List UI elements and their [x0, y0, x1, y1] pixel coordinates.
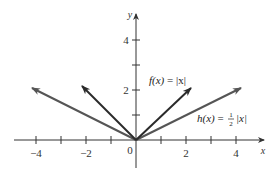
- y-tick-label-2: 2: [123, 84, 129, 96]
- x-axis-label: x: [260, 145, 266, 156]
- x-tick-label-4: 4: [233, 147, 239, 159]
- x-tick-label-neg2: −2: [80, 147, 92, 159]
- h-label: h(x) = 1 2 |x|: [197, 111, 247, 128]
- y-axis-label: y: [127, 9, 133, 20]
- absolute-value-graph: −4 −2 0 2 4 2 4 x y f(x) = |x| h(x) = 1 …: [0, 0, 279, 174]
- x-tick-label-2: 2: [183, 147, 189, 159]
- svg-text:h(x) =: h(x) =: [197, 112, 224, 125]
- f-label: f(x) = |x|: [149, 74, 186, 87]
- origin-label: 0: [127, 144, 133, 156]
- y-tick-label-4: 4: [123, 34, 129, 46]
- x-tick-label-neg4: −4: [30, 147, 42, 159]
- svg-text:2: 2: [229, 120, 233, 128]
- svg-text:|x|: |x|: [236, 112, 247, 124]
- svg-text:1: 1: [229, 111, 233, 119]
